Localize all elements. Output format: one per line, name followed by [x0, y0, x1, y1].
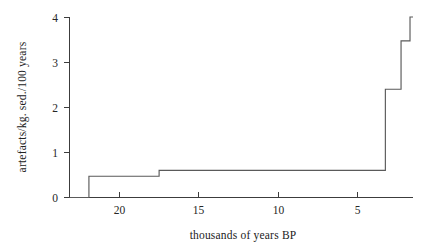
x-tick-label-20: 20 — [114, 204, 126, 216]
y-tick-label-2: 2 — [52, 102, 58, 114]
x-tick-label-10: 10 — [273, 204, 285, 216]
y-tick-label-4: 4 — [52, 12, 58, 24]
y-tick-label-1: 1 — [52, 147, 58, 159]
y-axis-ticks — [64, 18, 70, 198]
x-axis-tick-labels: 20 15 10 5 — [114, 204, 361, 216]
y-tick-label-0: 0 — [52, 192, 58, 204]
x-axis-ticks — [120, 192, 358, 198]
x-tick-label-15: 15 — [193, 204, 205, 216]
chart-figure: 0 1 2 3 4 20 15 10 5 thousands of years … — [0, 0, 427, 252]
y-tick-label-3: 3 — [52, 57, 58, 69]
x-axis-title: thousands of years BP — [190, 229, 297, 242]
y-axis-title: artefacts/kg. sed./100 years — [16, 41, 29, 172]
data-series-step-line — [70, 17, 414, 198]
step-chart-svg: 0 1 2 3 4 20 15 10 5 thousands of years … — [0, 0, 427, 252]
y-axis-tick-labels: 0 1 2 3 4 — [52, 12, 58, 204]
x-tick-label-5: 5 — [355, 204, 361, 216]
